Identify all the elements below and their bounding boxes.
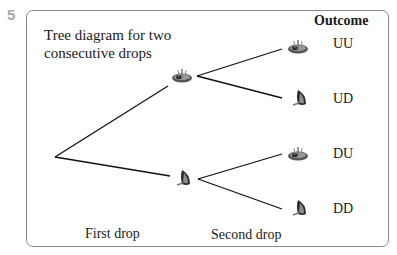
outcome-dd: DD <box>333 201 353 217</box>
branch-U-to-UU <box>197 49 282 76</box>
thumbtack-up-icon <box>288 147 308 161</box>
first-drop-label: First drop <box>85 226 140 242</box>
thumbtack-down-icon <box>293 200 306 215</box>
branch-D-to-DD <box>198 179 282 209</box>
branch-root-to-D <box>55 157 170 176</box>
outcome-uu: UU <box>333 36 353 52</box>
thumbtack-up-icon <box>172 69 192 83</box>
second-drop-label: Second drop <box>211 227 281 243</box>
branch-U-to-UD <box>197 76 282 98</box>
branch-root-to-U <box>55 86 168 157</box>
outcome-du: DU <box>333 146 353 162</box>
thumbtack-down-icon <box>293 90 306 105</box>
branch-D-to-DU <box>198 154 282 179</box>
thumbtack-up-icon <box>288 40 308 54</box>
thumbtack-down-icon <box>177 170 190 185</box>
outcome-ud: UD <box>333 91 353 107</box>
